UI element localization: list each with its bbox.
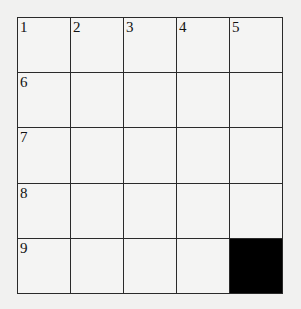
grid-cell-r3-c0[interactable]: 8 [18, 184, 71, 239]
grid-cell-r4-c1[interactable] [71, 239, 124, 294]
grid-cell-r4-c3[interactable] [177, 239, 230, 294]
clue-number: 6 [20, 74, 28, 90]
grid-cell-r3-c1[interactable] [71, 184, 124, 239]
grid-cell-r0-c1[interactable]: 2 [71, 18, 124, 73]
clue-number: 4 [179, 19, 187, 35]
grid-cell-r2-c2[interactable] [124, 128, 177, 183]
clue-number: 2 [73, 19, 81, 35]
grid-cell-r2-c3[interactable] [177, 128, 230, 183]
grid-cell-r1-c4[interactable] [230, 73, 283, 128]
clue-number: 8 [20, 185, 28, 201]
grid-cell-r2-c4[interactable] [230, 128, 283, 183]
grid-cell-r2-c1[interactable] [71, 128, 124, 183]
grid-cell-r0-c0[interactable]: 1 [18, 18, 71, 73]
crossword-grid: 1 2 3 4 5 6 7 8 9 [17, 17, 283, 294]
grid-cell-r1-c1[interactable] [71, 73, 124, 128]
grid-cell-r0-c3[interactable]: 4 [177, 18, 230, 73]
clue-number: 1 [20, 19, 28, 35]
grid-cell-r2-c0[interactable]: 7 [18, 128, 71, 183]
grid-cell-r3-c4[interactable] [230, 184, 283, 239]
grid-cell-r0-c4[interactable]: 5 [230, 18, 283, 73]
clue-number: 5 [232, 19, 240, 35]
grid-cell-r1-c2[interactable] [124, 73, 177, 128]
clue-number: 9 [20, 240, 28, 256]
grid-cell-r0-c2[interactable]: 3 [124, 18, 177, 73]
grid-cell-r3-c3[interactable] [177, 184, 230, 239]
black-square [230, 239, 283, 294]
grid-cell-r4-c2[interactable] [124, 239, 177, 294]
grid-cell-r1-c0[interactable]: 6 [18, 73, 71, 128]
grid-cell-r1-c3[interactable] [177, 73, 230, 128]
clue-number: 7 [20, 129, 28, 145]
grid-cell-r4-c0[interactable]: 9 [18, 239, 71, 294]
clue-number: 3 [126, 19, 134, 35]
grid-cell-r3-c2[interactable] [124, 184, 177, 239]
